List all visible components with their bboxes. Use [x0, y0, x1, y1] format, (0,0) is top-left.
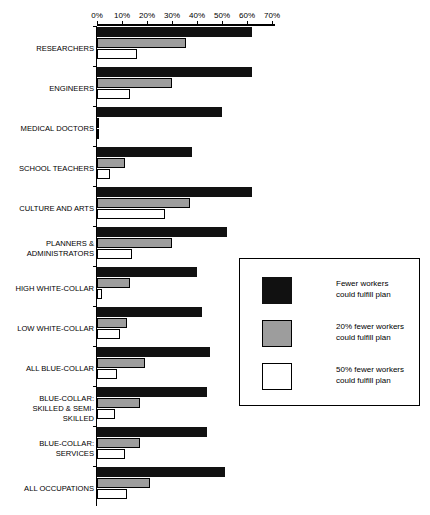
category-label: ALL BLUE-COLLAR: [0, 364, 94, 374]
legend-entry: 50% fewer workers could fulfill plan: [240, 363, 419, 397]
bar: [97, 329, 120, 339]
category-label: HIGH WHITE-COLLAR: [0, 284, 94, 294]
bar: [97, 347, 210, 357]
bar: [97, 227, 227, 237]
bar: [97, 38, 186, 48]
x-axis-tick-label: 10%: [114, 11, 130, 20]
bar: [97, 158, 125, 168]
bar: [97, 307, 202, 317]
legend-label: Fewer workers could fulfill plan: [336, 278, 391, 300]
bar: [97, 398, 140, 408]
bar: [97, 489, 127, 499]
category-label: ALL OCCUPATIONS: [0, 484, 94, 494]
legend-label: 50% fewer workers could fulfill plan: [336, 364, 404, 386]
bar: [97, 107, 222, 117]
x-axis-tick-label: 50%: [214, 11, 230, 20]
bar: [97, 438, 140, 448]
chart-legend: Fewer workers could fulfill plan20% fewe…: [239, 258, 420, 406]
bar: [97, 129, 99, 139]
x-axis-tick-label: 0%: [91, 11, 103, 20]
bar: [97, 289, 102, 299]
bar-group: BLUE-COLLAR: SERVICES: [0, 427, 430, 467]
category-label: ENGINEERS: [0, 84, 94, 94]
bar: [97, 187, 252, 197]
bar: [97, 278, 130, 288]
bar: [97, 238, 172, 248]
x-axis-tick: [147, 21, 148, 25]
bar-group: MEDICAL DOCTORS: [0, 107, 430, 147]
legend-entry: 20% fewer workers could fulfill plan: [240, 320, 419, 354]
bar: [97, 267, 197, 277]
category-label: BLUE-COLLAR: SERVICES: [0, 439, 94, 458]
category-label: BLUE-COLLAR: SKILLED & SEMI- SKILLED: [0, 394, 94, 423]
x-axis-tick: [222, 21, 223, 25]
bar: [97, 169, 110, 179]
category-label: RESEARCHERS: [0, 44, 94, 54]
x-axis-tick-label: 20%: [139, 11, 155, 20]
bar-group: SCHOOL TEACHERS: [0, 147, 430, 187]
x-axis-tick: [247, 21, 248, 25]
bar: [97, 449, 125, 459]
bar: [97, 67, 252, 77]
category-label: MEDICAL DOCTORS: [0, 124, 94, 134]
bar-group: CULTURE AND ARTS: [0, 187, 430, 227]
legend-swatch-black: [262, 277, 292, 304]
bar: [97, 409, 115, 419]
bar: [97, 427, 207, 437]
category-label: PLANNERS & ADMINISTRATORS: [0, 239, 94, 258]
legend-swatch-gray: [262, 320, 292, 347]
x-axis-tick: [272, 21, 273, 25]
bar: [97, 49, 137, 59]
x-axis-tick: [122, 21, 123, 25]
category-label: SCHOOL TEACHERS: [0, 164, 94, 174]
bar-group: ENGINEERS: [0, 67, 430, 107]
bar: [97, 209, 165, 219]
legend-label: 20% fewer workers could fulfill plan: [336, 321, 404, 343]
bar: [97, 147, 192, 157]
category-label: LOW WHITE-COLLAR: [0, 324, 94, 334]
x-axis-tick-label: 70%: [264, 11, 280, 20]
bar: [97, 78, 172, 88]
bar: [97, 318, 127, 328]
bar: [97, 387, 207, 397]
bar-group: RESEARCHERS: [0, 27, 430, 67]
bar: [97, 89, 130, 99]
legend-swatch-white: [262, 363, 292, 390]
bar-chart: 0%10%20%30%40%50%60%70% RESEARCHERSENGIN…: [0, 0, 430, 515]
bar: [97, 198, 190, 208]
bar: [97, 358, 145, 368]
x-axis-tick-label: 40%: [189, 11, 205, 20]
bar: [97, 118, 99, 128]
bar: [97, 467, 225, 477]
x-axis-tick-label: 60%: [239, 11, 255, 20]
bar: [97, 478, 150, 488]
bar: [97, 249, 132, 259]
bar: [97, 369, 117, 379]
category-label: CULTURE AND ARTS: [0, 204, 94, 214]
bar-group: ALL OCCUPATIONS: [0, 467, 430, 507]
x-axis-tick-label: 30%: [164, 11, 180, 20]
legend-entry: Fewer workers could fulfill plan: [240, 277, 419, 311]
x-axis-tick: [172, 21, 173, 25]
x-axis-tick: [197, 21, 198, 25]
bar: [97, 27, 252, 37]
x-axis-tick: [97, 21, 98, 25]
